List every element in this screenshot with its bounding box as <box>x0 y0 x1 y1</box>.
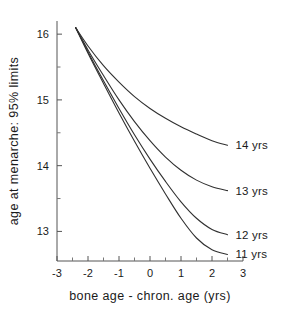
series-label-14-yrs: 14 yrs <box>236 139 269 151</box>
series-label-11-yrs: 11 yrs <box>236 248 268 260</box>
x-tick-label: -3 <box>52 267 62 279</box>
data-curve-14-yrs <box>76 28 228 146</box>
y-tick-label: 14 <box>37 160 49 172</box>
x-tick-label: -2 <box>83 267 93 279</box>
x-tick-label: 3 <box>240 267 246 279</box>
chart-plot-area: 13141516 -3-2-10123 14 yrs13 yrs12 yrs11… <box>0 0 287 312</box>
x-tick-label: 1 <box>178 267 184 279</box>
data-curve-12-yrs <box>76 28 228 235</box>
y-axis-title: age at menarche: 95% limits <box>7 57 21 226</box>
y-axis-ticks <box>57 34 62 231</box>
series-label-12-yrs: 12 yrs <box>236 229 269 241</box>
series-labels: 14 yrs13 yrs12 yrs11 yrs <box>236 139 269 260</box>
x-tick-label: -1 <box>114 267 124 279</box>
data-curve-11-yrs <box>76 28 228 255</box>
y-tick-label: 13 <box>37 225 49 237</box>
y-tick-label: 16 <box>37 28 49 40</box>
x-axis-ticks <box>57 256 243 261</box>
x-axis-title: bone age - chron. age (yrs) <box>69 289 231 303</box>
x-tick-label: 2 <box>209 267 215 279</box>
y-tick-label: 15 <box>37 94 49 106</box>
data-curves <box>76 28 228 255</box>
series-label-13-yrs: 13 yrs <box>236 185 269 197</box>
chart-figure: 13141516 -3-2-10123 14 yrs13 yrs12 yrs11… <box>0 0 287 312</box>
y-axis-tick-labels: 13141516 <box>37 28 49 237</box>
x-axis-tick-labels: -3-2-10123 <box>52 267 246 279</box>
x-tick-label: 0 <box>147 267 153 279</box>
